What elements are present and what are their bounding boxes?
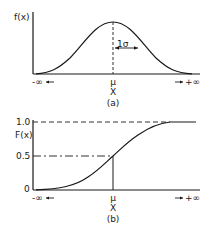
pos-inf-arrowhead-a xyxy=(180,81,183,84)
tick-0: 0 xyxy=(24,185,30,194)
panel-b-neg-inf-label: -∞ xyxy=(32,194,43,203)
panel-a-y-label: f(x) xyxy=(14,13,30,22)
panel-a-pos-inf-label: +∞ xyxy=(185,78,200,87)
panel-b-y-label: F(x) xyxy=(15,131,33,140)
pos-inf-arrowhead-b xyxy=(180,197,183,200)
neg-inf-arrowhead-b xyxy=(46,197,49,200)
panel-b-caption: (b) xyxy=(107,215,120,224)
pdf-curve xyxy=(36,22,192,74)
neg-inf-arrowhead-a xyxy=(46,81,49,84)
panel-a-caption: (a) xyxy=(107,99,120,108)
panel-a-mu-label: μ xyxy=(110,78,116,87)
panel-b-pos-inf-label: +∞ xyxy=(185,194,200,203)
tick-1-0: 1.0 xyxy=(16,118,30,127)
sigma-arrow-head-right xyxy=(134,46,138,49)
panel-b-plot xyxy=(33,120,200,200)
panel-b-x-label: X xyxy=(110,204,116,213)
panel-b-mu-label: μ xyxy=(110,194,116,203)
tick-0-5: 0.5 xyxy=(16,152,30,161)
panel-a-x-label: X xyxy=(110,88,116,97)
sigma-label: 1σ xyxy=(117,40,128,49)
panel-a-neg-inf-label: -∞ xyxy=(32,78,43,87)
